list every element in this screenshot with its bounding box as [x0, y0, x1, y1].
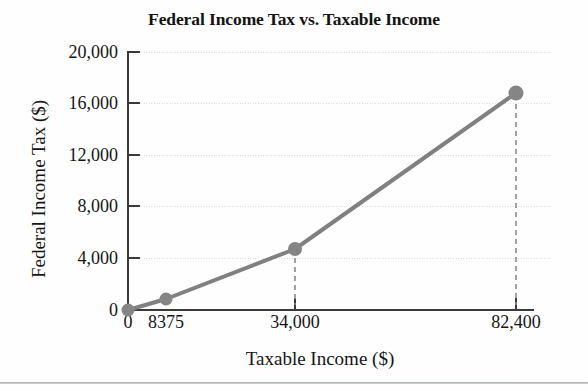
chart-figure: Federal Income Tax vs. Taxable Income Fe…: [0, 0, 588, 391]
data-point-82400: [509, 86, 524, 101]
droplines: [295, 95, 516, 305]
data-line-federal-income-tax: [128, 93, 516, 310]
y-tick-marks: [128, 52, 140, 258]
x-tick-marks: [295, 298, 516, 310]
data-point-34000: [288, 242, 302, 256]
data-point-8375: [160, 293, 173, 306]
gridlines: [128, 52, 552, 258]
data-point-markers: [122, 86, 524, 317]
data-point-0: [122, 304, 135, 317]
plot-area: [0, 0, 588, 391]
bottom-divider-rule: [0, 382, 588, 384]
